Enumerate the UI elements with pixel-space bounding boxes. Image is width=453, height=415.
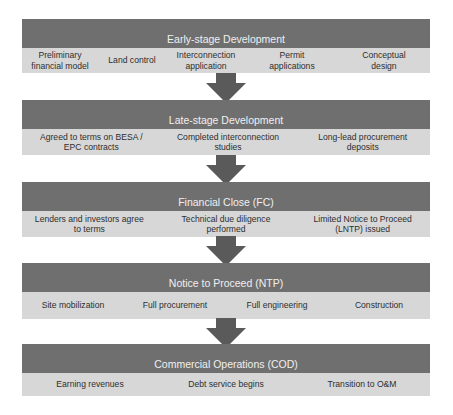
stage-item: Debt service begins xyxy=(158,379,294,390)
stage-title: Late-stage Development xyxy=(22,100,430,129)
stage-item: Conceptual design xyxy=(338,50,430,71)
stage-title: Early-stage Development xyxy=(22,19,430,48)
stage-item: Completed interconnection studies xyxy=(161,132,296,153)
arrow-down-icon xyxy=(206,236,246,266)
stage-late-development: Late-stage Development Agreed to terms o… xyxy=(22,100,430,155)
stage-items: Earning revenues Debt service begins Tra… xyxy=(22,373,430,396)
stage-item: Technical due diligence performed xyxy=(157,214,296,235)
stage-early-development: Early-stage Development Preliminary fina… xyxy=(22,19,430,73)
stage-items: Site mobilization Full procurement Full … xyxy=(22,292,430,319)
stage-item: Agreed to terms on BESA / EPC contracts xyxy=(22,132,161,153)
stage-item: Earning revenues xyxy=(22,379,158,390)
stage-item: Land control xyxy=(98,55,166,66)
stage-financial-close: Financial Close (FC) Lenders and investo… xyxy=(22,182,430,237)
stage-item: Construction xyxy=(328,300,430,311)
stage-item: Interconnection application xyxy=(166,50,246,71)
stage-item: Site mobilization xyxy=(22,300,124,311)
stage-title: Commercial Operations (COD) xyxy=(22,344,430,373)
stage-title: Notice to Proceed (NTP) xyxy=(22,263,430,292)
stage-item: Preliminary financial model xyxy=(22,50,98,71)
stage-item: Transition to O&M xyxy=(294,379,430,390)
stage-item: Limited Notice to Proceed (LNTP) issued xyxy=(295,214,430,235)
stage-item: Full procurement xyxy=(124,300,226,311)
stage-item: Full engineering xyxy=(226,300,328,311)
stage-notice-to-proceed: Notice to Proceed (NTP) Site mobilizatio… xyxy=(22,263,430,319)
stage-items: Preliminary financial model Land control… xyxy=(22,48,430,73)
stage-item: Long-lead procurement deposits xyxy=(295,132,430,153)
arrow-down-icon xyxy=(206,73,246,103)
stage-items: Lenders and investors agree to terms Tec… xyxy=(22,211,430,237)
arrow-down-icon xyxy=(206,155,246,185)
stage-items: Agreed to terms on BESA / EPC contracts … xyxy=(22,129,430,155)
stage-item: Lenders and investors agree to terms xyxy=(22,214,157,235)
stage-item: Permit applications xyxy=(246,50,338,71)
stage-commercial-operations: Commercial Operations (COD) Earning reve… xyxy=(22,344,430,396)
stage-title: Financial Close (FC) xyxy=(22,182,430,211)
